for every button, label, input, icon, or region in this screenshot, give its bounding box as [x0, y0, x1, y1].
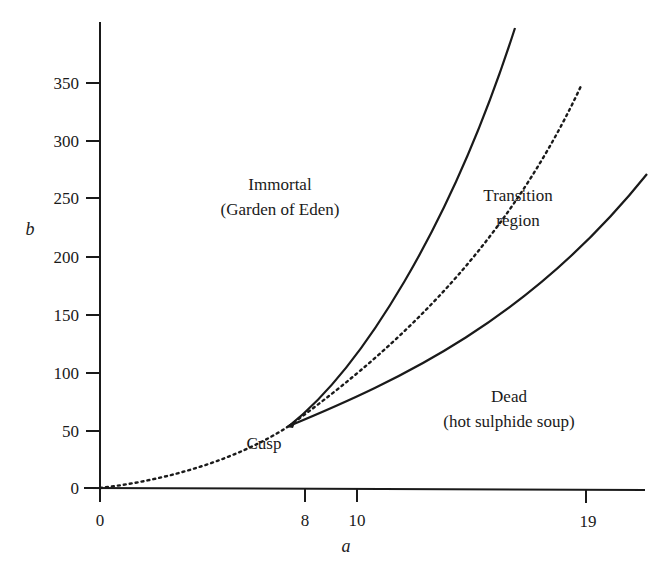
dead-sublabel: (hot sulphide soup) — [443, 412, 574, 431]
y-tick-label: 150 — [54, 306, 80, 325]
immortal-label: Immortal — [248, 175, 312, 194]
y-tick-label: 250 — [54, 189, 80, 208]
x-tick-label: 19 — [580, 512, 597, 531]
immortal-sublabel: (Garden of Eden) — [221, 200, 340, 219]
cusp-label: Cusp — [247, 434, 282, 453]
transition-sublabel: region — [496, 211, 540, 230]
y-tick-label: 0 — [71, 479, 80, 498]
y-tick-label: 100 — [54, 364, 80, 383]
x-axis — [84, 488, 645, 490]
x-ticks — [305, 489, 586, 503]
cusp-marker — [286, 420, 296, 428]
bifurcation-chart: 350 300 250 200 150 100 50 0 0 8 10 19 a… — [0, 0, 668, 567]
x-axis-title: a — [342, 536, 351, 556]
upper-branch-curve — [289, 28, 515, 426]
transition-dotted-curve — [289, 86, 581, 426]
dead-label: Dead — [491, 387, 527, 406]
x-tick-label: 0 — [96, 511, 105, 530]
y-tick-label: 350 — [54, 74, 80, 93]
y-tick-label: 300 — [54, 132, 80, 151]
y-tick-label: 200 — [54, 248, 80, 267]
y-tick-label: 50 — [62, 422, 79, 441]
x-tick-label: 10 — [349, 511, 366, 530]
y-ticks — [86, 83, 100, 431]
x-tick-label: 8 — [301, 511, 310, 530]
lower-branch-curve — [289, 174, 647, 426]
transition-label: Transition — [483, 186, 553, 205]
y-axis-title: b — [26, 219, 35, 239]
